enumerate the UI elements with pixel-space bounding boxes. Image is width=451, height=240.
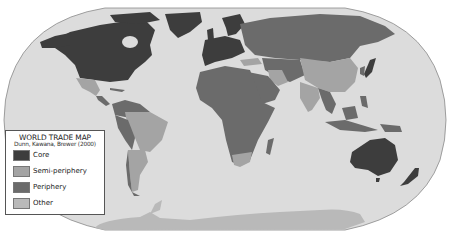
legend-item-periphery: Periphery bbox=[13, 181, 66, 193]
map-legend: WORLD TRADE MAP Dunn, Kawana, Brewer (20… bbox=[5, 130, 105, 215]
legend-item-other: Other bbox=[13, 197, 53, 209]
hudson-bay bbox=[122, 36, 138, 48]
legend-label: Periphery bbox=[33, 183, 66, 191]
core-swatch bbox=[13, 150, 30, 161]
other-swatch bbox=[13, 198, 30, 209]
uk bbox=[207, 28, 214, 40]
semi-periphery-swatch bbox=[13, 166, 30, 177]
legend-item-semi-periphery: Semi-periphery bbox=[13, 165, 87, 177]
legend-item-core: Core bbox=[13, 149, 49, 161]
legend-label: Core bbox=[33, 151, 49, 159]
periphery-swatch bbox=[13, 182, 30, 193]
legend-label: Semi-periphery bbox=[33, 167, 87, 175]
legend-label: Other bbox=[33, 199, 53, 207]
legend-subtitle: Dunn, Kawana, Brewer (2000) bbox=[6, 141, 104, 147]
